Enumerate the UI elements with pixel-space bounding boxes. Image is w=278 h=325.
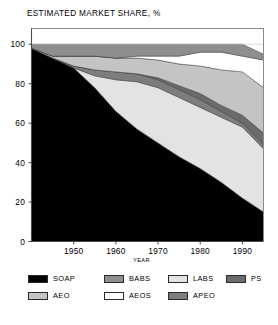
legend-row: SOAPBABSLABSPS bbox=[0, 271, 278, 288]
x-axis-title: YEAR bbox=[133, 257, 150, 263]
legend-swatch-apeo bbox=[168, 292, 188, 300]
legend-item-babs[interactable]: BABS bbox=[104, 274, 150, 283]
y-tick-label: 20 bbox=[3, 197, 25, 207]
legend-label: LABS bbox=[193, 274, 214, 283]
legend-item-apeo[interactable]: APEO bbox=[168, 291, 215, 300]
y-tick-label: 100 bbox=[3, 39, 25, 49]
y-tick-label: 80 bbox=[3, 79, 25, 89]
legend-label: AEOS bbox=[129, 291, 151, 300]
legend-row: AEOAEOSAPEO bbox=[0, 288, 278, 305]
chart-figure: ESTIMATED MARKET SHARE, % 020406080100 1… bbox=[0, 0, 278, 325]
legend-swatch-aeo bbox=[28, 292, 48, 300]
y-tick-label: 0 bbox=[3, 237, 25, 247]
legend-swatch-labs bbox=[168, 275, 188, 283]
legend-swatch-aeos bbox=[104, 292, 124, 300]
x-tick-label: 1980 bbox=[185, 246, 215, 256]
y-tick-label: 40 bbox=[3, 158, 25, 168]
legend-swatch-ps bbox=[226, 275, 246, 283]
legend-item-ps[interactable]: PS bbox=[226, 274, 262, 283]
legend-label: PS bbox=[251, 274, 262, 283]
x-tick-label: 1970 bbox=[143, 246, 173, 256]
chart-legend: SOAPBABSLABSPS AEOAEOSAPEO bbox=[0, 271, 278, 305]
legend-item-aeos[interactable]: AEOS bbox=[104, 291, 151, 300]
legend-label: APEO bbox=[193, 291, 215, 300]
legend-label: SOAP bbox=[53, 274, 75, 283]
legend-item-labs[interactable]: LABS bbox=[168, 274, 214, 283]
x-tick-label: 1950 bbox=[59, 246, 89, 256]
legend-swatch-soap bbox=[28, 275, 48, 283]
legend-item-aeo[interactable]: AEO bbox=[28, 291, 70, 300]
x-tick-label: 1960 bbox=[101, 246, 131, 256]
x-tick-label: 1990 bbox=[227, 246, 257, 256]
legend-label: AEO bbox=[53, 291, 70, 300]
y-tick-label: 60 bbox=[3, 118, 25, 128]
legend-swatch-babs bbox=[104, 275, 124, 283]
legend-item-soap[interactable]: SOAP bbox=[28, 274, 75, 283]
legend-label: BABS bbox=[129, 274, 150, 283]
